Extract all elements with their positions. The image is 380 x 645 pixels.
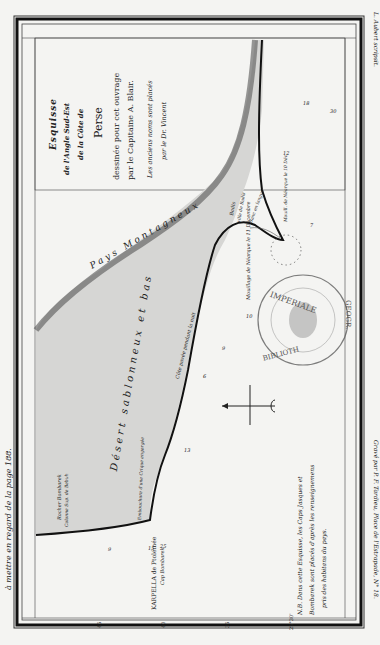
sounding: 9 [222,345,225,351]
sounding: 9 [108,546,111,552]
title-line5: dessinée pour cet ouvrage [112,73,121,180]
sounding: 30 [330,108,336,114]
compass-icon [222,385,275,425]
sounding: 12 [283,150,289,156]
anchorage-dec10-label: Mouill. de Néarque le 10 Déc. [283,153,288,222]
sounding: 7 [310,222,313,228]
sounding: 13 [184,447,190,453]
title-line6: par le Capitaine A. Blair. [126,80,135,180]
cap-label: Cap Bombarek [159,547,165,585]
anchorage-dec11-label: Mouillage de Néarque le 11 Décembre [245,202,251,300]
latitude-label: 40 [160,622,166,628]
sounding: 15 [148,545,154,551]
title-line8: par le Dr. Vincent [160,102,168,160]
sounding: 6 [203,373,206,379]
nb-line2: Bombarek sont placés d'après les renseig… [308,465,315,615]
title-line3: de la Côte de [76,109,85,160]
engraver-credit: L. Aubert scripsit. [373,12,380,67]
title-line7: Les anciens noms sont placés [146,81,154,179]
latitude-label: 35 [224,622,230,628]
sounding: 25 [160,543,166,549]
latitude-label: 45 [96,622,102,628]
stamp-right-text: GEOGR. [344,300,352,330]
publisher-credit: Gravé par P. F. Tardieu, Place de l'Estr… [373,440,380,599]
shoal-circle [271,235,301,265]
title-line4: Perse [92,107,105,138]
rocher-label: Rocher Bombarek [56,474,62,520]
nb-line3: pris des habitans du pays. [320,529,327,608]
sounding: 10 [246,313,252,319]
title-line2: de l'Angle Sud-Est [62,103,71,175]
nb-line1: N.B. Dans cette Esquisse, les Caps Jasqu… [296,476,303,615]
colonne-label: Colonne Sup. de Bebuh [64,473,69,527]
sounding: 18 [303,100,309,106]
latitude-label: 25°30' [288,613,294,630]
title-line1: Esquisse [48,98,58,150]
margin-note-left: à mettre en regard de la page 188. [4,448,13,590]
